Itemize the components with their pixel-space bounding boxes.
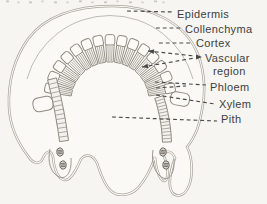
stem-cross-section-figure: Epidermis Collenchyma Cortex Vascular re… [0, 0, 267, 204]
label-phloem: Phloem [210, 81, 249, 93]
label-xylem: Xylem [219, 98, 251, 110]
label-cortex: Cortex [196, 37, 231, 49]
label-vascular-region-line2: region [213, 65, 246, 77]
textbook-figure-page: Epidermis Collenchyma Cortex Vascular re… [0, 0, 267, 204]
label-pith: Pith [221, 113, 241, 125]
label-epidermis: Epidermis [177, 8, 229, 20]
crop-text-artifacts [6, 1, 165, 4]
label-collenchyma: Collenchyma [185, 23, 253, 35]
label-vascular-region-line1: Vascular [205, 52, 250, 64]
